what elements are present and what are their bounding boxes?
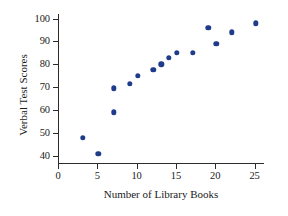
x-axis-tick-label: 5 [84,170,110,181]
data-point [159,62,164,67]
data-point [111,86,116,91]
data-point [253,20,258,25]
data-point [229,30,234,35]
x-axis-title: Number of Library Books [58,188,264,200]
data-point [214,41,219,46]
data-point [111,110,116,115]
x-axis-tick-label: 20 [202,170,228,181]
data-point [127,81,132,86]
y-axis-title: Verbal Test Scores [17,20,29,170]
x-axis-tick [137,164,138,169]
data-point [151,67,156,72]
data-point [96,151,101,156]
x-axis-tick-label: 10 [124,170,150,181]
x-axis-tick-label: 0 [45,170,71,181]
data-point [206,25,211,30]
x-axis-tick [215,164,216,169]
x-axis-tick [58,164,59,169]
x-axis-tick-label: 15 [163,170,189,181]
plot-area [58,14,264,164]
x-axis-tick [176,164,177,169]
x-axis-tick [255,164,256,169]
data-point [166,55,171,60]
x-axis-tick [97,164,98,169]
data-point [80,135,85,140]
x-axis-tick-label: 25 [242,170,268,181]
data-point [190,50,195,55]
data-point [174,50,179,55]
data-point [135,73,140,78]
scatter-plot-figure: 405060708090100 0510152025 Number of Lib… [0,0,288,216]
